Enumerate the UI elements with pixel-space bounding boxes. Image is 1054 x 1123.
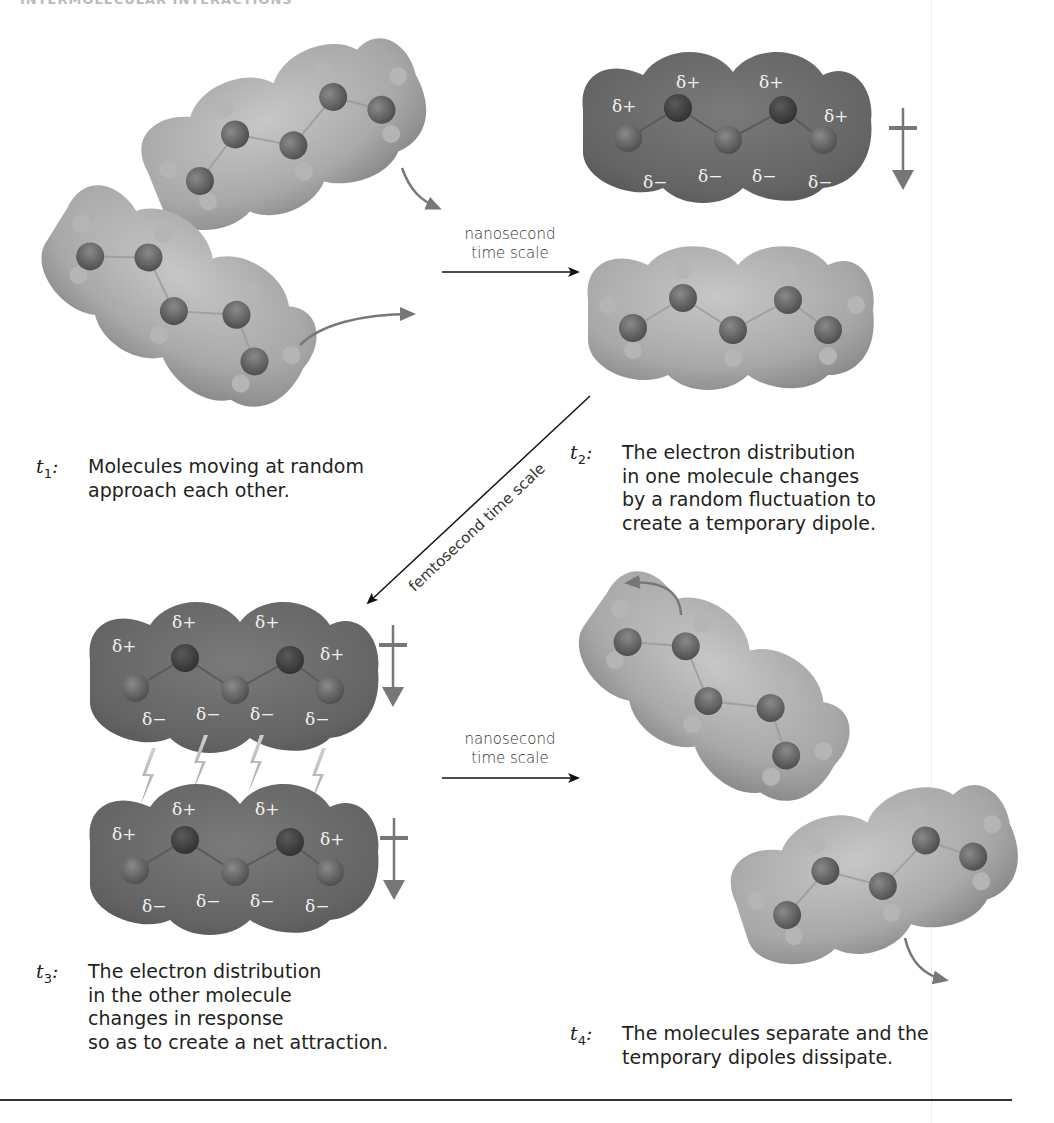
arrow-label-line: time scale <box>446 749 574 768</box>
motion-arrow-icon <box>905 938 945 980</box>
svg-text:δ+: δ+ <box>172 612 196 632</box>
caption-t1: t1: Molecules moving at random approach … <box>36 455 396 502</box>
svg-text:δ+: δ+ <box>112 824 136 844</box>
arrow-label-line: time scale <box>446 244 574 263</box>
caption-text: The electron distribution in one molecul… <box>622 441 950 535</box>
svg-text:δ+: δ+ <box>824 106 848 126</box>
svg-text:δ−: δ− <box>196 891 220 911</box>
svg-text:δ−: δ− <box>643 172 667 192</box>
svg-text:δ−: δ− <box>250 891 274 911</box>
svg-text:δ−: δ− <box>808 172 832 192</box>
molecule-t2-neutral <box>588 246 874 390</box>
page-divider <box>0 1099 1012 1101</box>
svg-text:δ+: δ+ <box>612 96 636 116</box>
arrow-label-line: nanosecond <box>446 225 574 244</box>
svg-text:δ−: δ− <box>142 896 166 916</box>
svg-text:δ−: δ− <box>142 709 166 729</box>
svg-text:δ+: δ+ <box>320 829 344 849</box>
figure-illustration: δ+ δ+ δ+ δ+ δ− δ− δ− δ− δ+ δ+ δ+ δ+ δ− δ… <box>0 0 1054 1123</box>
time-label: t4: <box>570 1022 592 1052</box>
arrow-label-t3-t4: nanosecond time scale <box>446 730 574 768</box>
molecule-t4-top <box>555 549 872 831</box>
svg-text:δ+: δ+ <box>255 799 279 819</box>
svg-text:δ+: δ+ <box>759 72 783 92</box>
svg-text:δ+: δ+ <box>320 644 344 664</box>
caption-text: Molecules moving at random approach each… <box>88 455 396 502</box>
caption-text: The molecules separate and the temporary… <box>622 1022 970 1069</box>
molecule-t4-bottom <box>719 763 1036 988</box>
motion-arrow-icon <box>402 168 438 208</box>
svg-text:δ−: δ− <box>305 709 329 729</box>
caption-t4: t4: The molecules separate and the tempo… <box>570 1022 970 1069</box>
time-label: t2: <box>570 441 592 471</box>
caption-t3: t3: The electron distribution in the oth… <box>36 960 416 1054</box>
svg-text:δ−: δ− <box>305 896 329 916</box>
molecule-t3-top-dipole <box>90 602 379 753</box>
time-label: t3: <box>36 960 58 990</box>
arrow-label-t1-t2: nanosecond time scale <box>446 225 574 263</box>
svg-text:δ−: δ− <box>698 166 722 186</box>
time-arrow-t2-t3 <box>368 396 590 603</box>
attraction-bolt-icon <box>140 748 156 806</box>
svg-text:δ+: δ+ <box>172 799 196 819</box>
molecule-t3-bottom-dipole <box>90 784 379 935</box>
caption-text: The electron distribution in the other m… <box>88 960 416 1054</box>
svg-text:δ−: δ− <box>196 704 220 724</box>
svg-text:δ+: δ+ <box>255 612 279 632</box>
motion-arrow-icon <box>300 314 412 345</box>
svg-text:δ+: δ+ <box>112 636 136 656</box>
svg-text:δ−: δ− <box>752 166 776 186</box>
time-label: t1: <box>36 455 58 485</box>
arrow-label-line: nanosecond <box>446 730 574 749</box>
svg-text:δ+: δ+ <box>676 72 700 92</box>
svg-text:δ−: δ− <box>250 704 274 724</box>
caption-t2: t2: The electron distribution in one mol… <box>570 441 950 535</box>
